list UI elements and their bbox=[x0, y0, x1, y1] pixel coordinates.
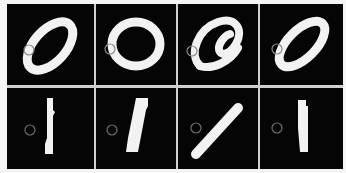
digit-one-image bbox=[260, 88, 343, 169]
cell-r1-c2-digit-one bbox=[178, 88, 258, 169]
cell-r0-c0-digit-zero bbox=[7, 4, 94, 85]
digit-one-image bbox=[178, 88, 258, 169]
cell-r1-c1-digit-one bbox=[96, 88, 176, 169]
digit-one-image bbox=[96, 88, 176, 169]
digit-one-image bbox=[7, 88, 94, 169]
cell-r0-c3-digit-zero bbox=[260, 4, 343, 85]
cell-r1-c0-digit-one bbox=[7, 88, 94, 169]
marker-circle-icon bbox=[25, 125, 35, 135]
cell-r1-c3-digit-one bbox=[260, 88, 343, 169]
cell-r0-c2-digit-zero bbox=[178, 4, 258, 85]
digit-zero-image bbox=[7, 4, 94, 85]
marker-circle-icon bbox=[272, 123, 282, 133]
digit-zero-image bbox=[96, 4, 176, 85]
marker-circle-icon bbox=[191, 123, 201, 133]
cell-r0-c1-digit-zero bbox=[96, 4, 176, 85]
marker-circle-icon bbox=[107, 125, 117, 135]
digit-zero-image bbox=[260, 4, 343, 85]
digit-zero-image bbox=[178, 4, 258, 85]
digit-image-grid bbox=[7, 4, 343, 169]
